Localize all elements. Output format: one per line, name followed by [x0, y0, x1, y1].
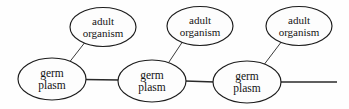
node-adult-organism-3[interactable]: adult organism — [266, 7, 332, 46]
edge-germ-plasm-2-to-germ-plasm-3 — [185, 81, 215, 82]
edge-germ-plasm-3-to-adult-organism-3 — [263, 41, 282, 66]
adult-organism-1-label-line2: organism — [83, 27, 124, 39]
diagram-canvas: germ plasm germ plasm germ plasm adult o… — [0, 0, 349, 109]
adult-organism-3-label-line1: adult — [288, 14, 310, 26]
adult-organism-2-label-line2: organism — [180, 26, 221, 38]
adult-organism-2-label-line1: adult — [189, 14, 211, 26]
node-germ-plasm-1[interactable]: germ plasm — [18, 58, 86, 100]
edge-germ-plasm-1-to-germ-plasm-2 — [84, 80, 120, 81]
node-adult-organism-1[interactable]: adult organism — [70, 8, 136, 47]
germ-plasm-1-label-line2: plasm — [38, 79, 66, 92]
adult-organism-3-label-line2: organism — [279, 26, 320, 38]
germ-plasm-2-label-line2: plasm — [138, 81, 166, 94]
germ-plasm-3-label-line2: plasm — [233, 82, 261, 95]
germ-plasm-diagram: germ plasm germ plasm germ plasm adult o… — [0, 0, 349, 109]
edge-germ-plasm-1-to-adult-organism-1 — [68, 41, 86, 64]
adult-organism-1-label-line1: adult — [92, 15, 114, 27]
node-germ-plasm-3[interactable]: germ plasm — [213, 61, 281, 103]
node-adult-organism-2[interactable]: adult organism — [167, 7, 233, 46]
node-germ-plasm-2[interactable]: germ plasm — [118, 60, 186, 102]
edge-germ-plasm-2-to-adult-organism-2 — [167, 41, 183, 65]
